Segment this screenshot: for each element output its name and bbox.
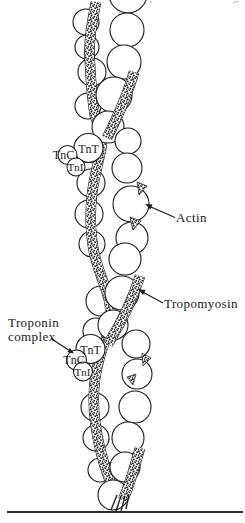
actin-monomer <box>113 186 149 222</box>
troponin-I-label: TnI <box>75 366 91 378</box>
actin-monomer <box>109 243 141 275</box>
troponin-arrow-line <box>51 339 69 351</box>
actin-monomer <box>115 128 141 154</box>
actin-monomer <box>110 13 144 47</box>
actin-callout: Actin <box>145 204 207 225</box>
actin-monomer <box>122 359 152 389</box>
troponin-complex-callout: Troponin complex <box>8 315 74 354</box>
troponin-complex-label-line2: complex <box>8 329 56 344</box>
tropomyosin-callout: Tropomyosin <box>138 289 238 311</box>
tropomyosin-label: Tropomyosin <box>164 296 238 311</box>
actin-monomer <box>112 153 142 183</box>
actin-monomer <box>122 330 150 358</box>
troponin-T-label: TnT <box>78 142 99 156</box>
thin-filament-figure: TnT TnC TnI TnT TnC TnI Actin Tropomyosi… <box>0 0 245 523</box>
actin-arrow-line <box>151 207 175 218</box>
tropomyosin-arrow-line <box>144 293 164 304</box>
thin-filament-diagram: TnT TnC TnI TnT TnC TnI Actin Tropomyosi… <box>0 0 245 523</box>
actin-monomer <box>109 0 147 13</box>
actin-monomer <box>119 391 151 423</box>
actin-label: Actin <box>176 210 207 225</box>
troponin-I-label: TnI <box>68 161 84 173</box>
